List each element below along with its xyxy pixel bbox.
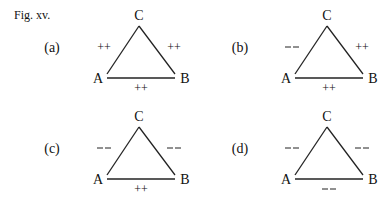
vertex-a: A xyxy=(93,71,104,86)
edge-label-ab: ++ xyxy=(134,182,148,196)
vertex-b: B xyxy=(180,172,189,187)
panel-label: (d) xyxy=(232,141,249,157)
vertex-a: A xyxy=(281,71,292,86)
edge-label-cb: ++ xyxy=(167,40,181,54)
edge-cb xyxy=(327,127,363,175)
edge-cb xyxy=(139,127,175,175)
signed-triangles-diagram: CAB(a)++++++CAB(b)++++CAB(c)++CAB(d) xyxy=(0,0,378,202)
vertex-a: A xyxy=(281,172,292,187)
vertex-c: C xyxy=(134,109,143,124)
edge-label-ab: ++ xyxy=(134,81,148,95)
vertex-b: B xyxy=(368,172,377,187)
panel-label: (c) xyxy=(44,141,60,157)
vertex-b: B xyxy=(368,71,377,86)
panel-label: (b) xyxy=(232,40,249,56)
vertex-c: C xyxy=(322,8,331,23)
edge-ac xyxy=(295,26,327,74)
vertex-c: C xyxy=(322,109,331,124)
vertex-b: B xyxy=(180,71,189,86)
edge-label-ab: ++ xyxy=(322,81,336,95)
edge-label-ac: ++ xyxy=(97,40,111,54)
vertex-a: A xyxy=(93,172,104,187)
edge-ac xyxy=(295,127,327,175)
panel-label: (a) xyxy=(44,40,60,56)
edge-label-cb: ++ xyxy=(355,40,369,54)
edge-ac xyxy=(107,127,139,175)
vertex-c: C xyxy=(134,8,143,23)
edge-ac xyxy=(107,26,139,74)
